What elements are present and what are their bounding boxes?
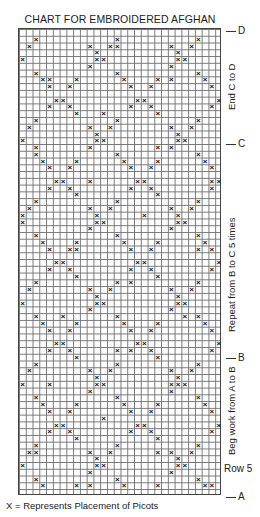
picot-mark: × xyxy=(87,225,94,232)
label-repeat-b-to-c: Repeat from B to C 5 times xyxy=(226,217,237,332)
picot-mark: × xyxy=(87,144,94,151)
picot-mark: × xyxy=(127,347,134,354)
picot-mark: × xyxy=(66,164,73,171)
picot-mark: × xyxy=(168,225,175,232)
legend-footer: X = Represents Placement of Picots xyxy=(6,500,158,511)
picot-mark: × xyxy=(66,327,73,334)
picot-mark: × xyxy=(127,428,134,435)
picot-mark: × xyxy=(208,246,215,253)
picot-mark: × xyxy=(208,164,215,171)
picot-mark: × xyxy=(208,347,215,354)
picot-mark: × xyxy=(46,246,53,253)
picot-mark: × xyxy=(154,320,161,327)
picot-mark: × xyxy=(100,381,107,388)
picot-mark: × xyxy=(100,415,107,422)
picot-mark: × xyxy=(127,185,134,192)
picot-mark: × xyxy=(33,361,40,368)
picot-mark: × xyxy=(154,482,161,489)
picot-mark: × xyxy=(127,246,134,253)
picot-mark: × xyxy=(121,482,128,489)
picot-mark: × xyxy=(215,97,222,104)
marker-b-tick xyxy=(226,358,236,359)
picot-mark: × xyxy=(100,56,107,63)
picot-mark: × xyxy=(168,76,175,83)
picot-mark: × xyxy=(127,83,134,90)
marker-b: B xyxy=(238,352,245,363)
picot-mark: × xyxy=(73,354,80,361)
picot-mark: × xyxy=(107,367,114,374)
picot-mark: × xyxy=(100,219,107,226)
picot-mark: × xyxy=(19,462,26,469)
picot-mark: × xyxy=(19,219,26,226)
picot-mark: × xyxy=(181,137,188,144)
picot-mark: × xyxy=(208,408,215,415)
picot-grid: ××××××××××××××××××××××××××××××××××××××××… xyxy=(18,28,221,495)
picot-mark: × xyxy=(100,137,107,144)
picot-mark: × xyxy=(100,110,107,117)
picot-mark: × xyxy=(107,286,114,293)
picot-mark: × xyxy=(154,435,161,442)
picot-mark: × xyxy=(168,63,175,70)
picot-mark: × xyxy=(154,76,161,83)
picot-mark: × xyxy=(127,164,134,171)
picot-mark: × xyxy=(154,354,161,361)
picot-mark: × xyxy=(66,408,73,415)
marker-d-tick xyxy=(226,31,236,32)
marker-a: A xyxy=(238,491,245,502)
picot-mark: × xyxy=(26,205,33,212)
picot-mark: × xyxy=(188,205,195,212)
picot-mark: × xyxy=(73,191,80,198)
picot-mark: × xyxy=(46,408,53,415)
picot-mark: × xyxy=(33,449,40,456)
picot-mark: × xyxy=(46,347,53,354)
picot-mark: × xyxy=(127,279,134,286)
picot-mark: × xyxy=(188,43,195,50)
picot-mark: × xyxy=(73,401,80,408)
picot-mark: × xyxy=(19,381,26,388)
picot-mark: × xyxy=(215,178,222,185)
picot-mark: × xyxy=(73,435,80,442)
picot-mark: × xyxy=(181,300,188,307)
picot-mark: × xyxy=(87,63,94,70)
picot-mark: × xyxy=(127,103,134,110)
picot-mark: × xyxy=(26,367,33,374)
picot-mark: × xyxy=(188,367,195,374)
picot-mark: × xyxy=(73,158,80,165)
picot-mark: × xyxy=(26,43,33,50)
picot-mark: × xyxy=(181,381,188,388)
picot-mark: × xyxy=(39,482,46,489)
picot-mark: × xyxy=(114,43,121,50)
picot-mark: × xyxy=(195,361,202,368)
picot-mark: × xyxy=(46,164,53,171)
picot-mark: × xyxy=(46,103,53,110)
picot-mark: × xyxy=(19,300,26,307)
picot-mark: × xyxy=(26,124,33,131)
picot-mark: × xyxy=(19,56,26,63)
picot-mark: × xyxy=(114,442,121,449)
marker-a-tick xyxy=(226,497,236,498)
picot-mark: × xyxy=(19,137,26,144)
picot-mark: × xyxy=(195,36,202,43)
picot-mark: × xyxy=(168,144,175,151)
picot-mark: × xyxy=(168,469,175,476)
picot-mark: × xyxy=(87,388,94,395)
picot-mark: × xyxy=(46,381,53,388)
picot-mark: × xyxy=(87,178,94,185)
picot-mark: × xyxy=(154,239,161,246)
picot-mark: × xyxy=(114,347,121,354)
picot-mark: × xyxy=(154,144,161,151)
picot-mark: × xyxy=(195,279,202,286)
picot-mark: × xyxy=(188,449,195,456)
picot-mark: × xyxy=(107,205,114,212)
picot-mark: × xyxy=(188,124,195,131)
picot-mark: × xyxy=(100,462,107,469)
picot-mark: × xyxy=(148,246,155,253)
picot-mark: × xyxy=(181,462,188,469)
picot-mark: × xyxy=(208,428,215,435)
picot-mark: × xyxy=(114,279,121,286)
picot-mark: × xyxy=(107,124,114,131)
picot-mark: × xyxy=(148,408,155,415)
marker-c: C xyxy=(238,138,245,149)
picot-mark: × xyxy=(114,198,121,205)
picot-mark: × xyxy=(148,327,155,334)
